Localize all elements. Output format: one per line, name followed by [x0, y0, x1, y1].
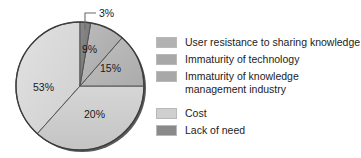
legend-swatch-icon — [156, 71, 177, 82]
legend: User resistance to sharing knowledge Imm… — [156, 36, 361, 141]
pie-svg: 3% 9% 15% 20% 53% — [0, 0, 160, 158]
pie-label-15: 15% — [100, 62, 121, 74]
legend-item-cost[interactable]: Cost — [156, 107, 361, 120]
legend-label: Immaturity of knowledge management indus… — [185, 70, 299, 96]
legend-label: User resistance to sharing knowledge — [185, 36, 360, 49]
legend-item-user-resistance[interactable]: User resistance to sharing knowledge — [156, 36, 361, 49]
legend-label: Immaturity of technology — [185, 53, 299, 66]
pie-label-20: 20% — [84, 108, 105, 120]
pie-chart-figure: 3% 9% 15% 20% 53% User resistance to sha… — [0, 0, 361, 158]
legend-item-immaturity-km-industry[interactable]: Immaturity of knowledge management indus… — [156, 70, 361, 96]
legend-item-immaturity-technology[interactable]: Immaturity of technology — [156, 53, 361, 66]
pie-chart-plot: 3% 9% 15% 20% 53% — [0, 0, 160, 158]
legend-label: Lack of need — [185, 124, 245, 137]
legend-swatch-icon — [156, 54, 177, 65]
pie-label-3: 3% — [99, 7, 114, 19]
legend-swatch-icon — [156, 125, 177, 136]
legend-item-lack-of-need[interactable]: Lack of need — [156, 124, 361, 137]
legend-swatch-icon — [156, 37, 177, 48]
legend-label: Cost — [185, 107, 207, 120]
pie-label-9: 9% — [82, 43, 97, 55]
pie-label-53: 53% — [33, 81, 54, 93]
legend-swatch-icon — [156, 108, 177, 119]
